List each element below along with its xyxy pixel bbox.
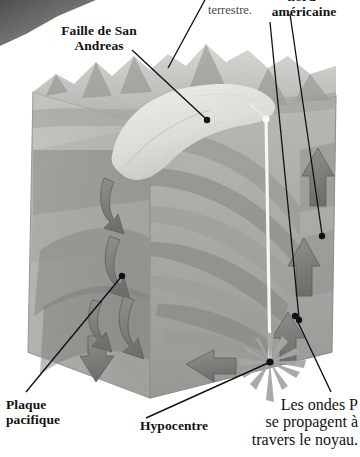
diagram-canvas: Faille de San Andreas travers la croûte … [0,0,360,457]
label-hypocentre-line1: Hypocentre [112,419,236,434]
label-ondesP-line3: travers le noyau. [238,431,358,448]
block-diagram-illustration [0,0,360,457]
plaque-pacifique-dot [119,273,125,279]
label-plaque-nord-americaine: nord- américaine [250,0,358,19]
label-croute-line2: terrestre. [148,4,252,18]
label-nordam-line2: américaine [250,5,358,20]
label-ondesP-line2: se propagent à [238,413,358,430]
label-plaque-pacifique: Plaque pacifique [6,398,116,427]
ondesP-dot [292,313,298,319]
label-faille-line2: Andreas [34,39,164,54]
label-croute-terrestre: travers la croûte terrestre. [148,0,252,17]
label-ondes-p: Les ondes P se propagent à travers le no… [238,396,358,448]
nordam-leader-dot [319,233,325,239]
label-plaquepac-line2: pacifique [6,413,116,428]
label-ondesP-line1: Les ondes P [238,396,358,413]
faille-leader-dot [204,117,210,123]
label-faille-line1: Faille de San [34,24,164,39]
label-faille-de-san-andreas: Faille de San Andreas [34,24,164,53]
label-hypocentre: Hypocentre [112,419,236,434]
label-plaquepac-line1: Plaque [6,398,116,413]
